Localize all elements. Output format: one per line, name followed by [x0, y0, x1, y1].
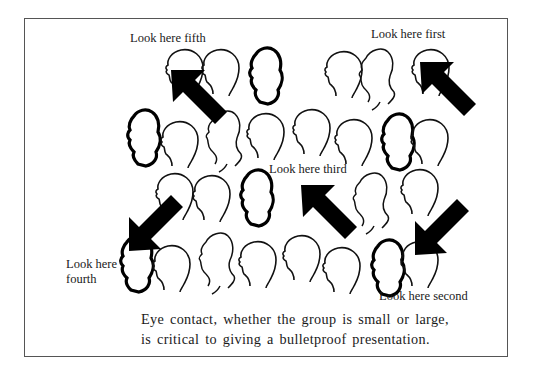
figure-caption: Eye contact, whether the group is small … [141, 309, 449, 349]
arrow-second [415, 199, 469, 255]
arrow-fifth [171, 70, 227, 124]
caption-line1: Eye contact, whether the group is small … [141, 309, 449, 329]
caption-line2: is critical to giving a bulletproof pres… [141, 329, 449, 349]
arrow-third [301, 185, 357, 239]
label-fourth-line2: fourth [66, 272, 117, 287]
row-3-heads [156, 170, 438, 234]
label-look-here-third: Look here third [269, 162, 347, 177]
label-look-here-fourth: Look here fourth [66, 257, 117, 287]
label-look-here-fifth: Look here fifth [130, 31, 206, 46]
row-4-heads [121, 233, 438, 296]
arrow-fourth [129, 195, 183, 251]
arrow-first [420, 62, 476, 116]
label-fourth-line1: Look here [66, 257, 117, 272]
label-look-here-second: Look here second [379, 289, 468, 304]
label-look-here-first: Look here first [371, 27, 445, 42]
